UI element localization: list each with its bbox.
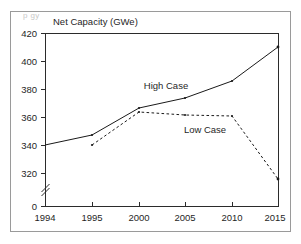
x-axis-ticks [46, 202, 279, 207]
series-annotation-high-case: High Case [144, 80, 188, 91]
series-line-low-case [92, 112, 278, 179]
x-tick-label-2015: 2015 [264, 212, 285, 223]
series-line-high-case [45, 47, 278, 145]
net-capacity-line-chart: 420 400 380 360 340 320 0 1994 1995 2000… [11, 12, 290, 231]
x-tick-label-2000: 2000 [128, 212, 149, 223]
y-tick-label-400: 400 [21, 56, 37, 67]
figure-frame: p gy 420 400 380 360 340 320 0 [10, 11, 291, 232]
series-annotation-low-case: Low Case [184, 124, 226, 135]
y-tick-label-420: 420 [21, 28, 37, 39]
x-tick-label-2010: 2010 [221, 212, 242, 223]
y-tick-label-360: 360 [21, 112, 37, 123]
x-tick-label-1995: 1995 [81, 212, 102, 223]
y-tick-label-320: 320 [21, 168, 37, 179]
y-tick-label-340: 340 [21, 140, 37, 151]
y-tick-label-0: 0 [32, 201, 37, 212]
x-tick-label-1994: 1994 [34, 212, 55, 223]
chart-title: Net Capacity (GWe) [53, 16, 138, 27]
series-markers-low-case [91, 111, 280, 181]
x-tick-label-2005: 2005 [174, 212, 195, 223]
y-tick-label-380: 380 [21, 84, 37, 95]
y-axis-ticks [41, 34, 46, 207]
